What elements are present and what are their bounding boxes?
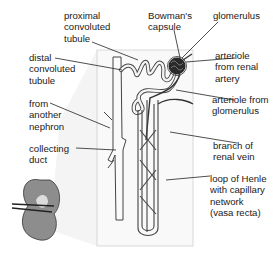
label-loop-of-henle: loop of Henle with capillary network (va… <box>210 173 267 219</box>
label-bowmans-capsule: Bowman's capsule <box>148 10 192 33</box>
label-collecting-duct: collecting duct <box>29 143 69 166</box>
glomerulus <box>169 58 186 75</box>
label-from-another-nephron: from another nephron <box>29 98 64 132</box>
label-branch-of-renal-vein: branch of renal vein <box>213 140 255 163</box>
label-proximal-convoluted-tubule: proximal convoluted tubule <box>64 10 110 44</box>
label-distal-convoluted-tubule: distal convoluted tubule <box>29 52 75 86</box>
label-arteriole-from-glomerulus: arteriole from glomerulus <box>212 94 269 117</box>
label-glomerulus: glomerulus <box>213 10 260 21</box>
label-arteriole-from-renal-artery: arteriole from renal artery <box>215 50 258 84</box>
kidney-illustration <box>12 179 60 240</box>
detail-panel <box>97 50 193 246</box>
